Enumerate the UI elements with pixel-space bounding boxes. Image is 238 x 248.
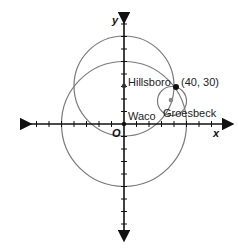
waco-label: Waco <box>128 110 156 122</box>
y-axis-label: y <box>111 14 119 26</box>
x-axis-label: x <box>212 127 220 139</box>
waco-point <box>122 122 126 126</box>
intersection-label: (40, 30) <box>181 76 219 88</box>
coordinate-diagram: y x O Hillsboro Waco Groesbeck (40, 30) <box>0 0 238 248</box>
hillsboro-label: Hillsboro <box>128 76 171 88</box>
origin-label: O <box>112 127 121 139</box>
intersection-point <box>173 84 179 90</box>
groesbeck-label: Groesbeck <box>163 107 217 119</box>
groesbeck-point <box>169 98 174 103</box>
hillsboro-point <box>122 84 126 88</box>
